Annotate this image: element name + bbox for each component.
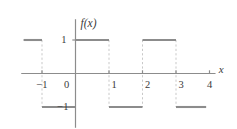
x-tick-label-3: 3 [178, 80, 183, 91]
x-tick-label-0: 0 [64, 80, 69, 91]
plot-area [0, 0, 237, 129]
function-label: f(x) [81, 18, 97, 30]
y-tick-label-1: 1 [61, 35, 66, 46]
x-tick-label-1: 1 [111, 80, 116, 91]
x-tick-label-4: 4 [207, 80, 212, 91]
square-wave-figure: f(x) 1 −1 −1 0 1 2 3 4 x [0, 0, 237, 129]
y-tick-label-neg1: −1 [57, 102, 68, 113]
x-tick-label-neg1: −1 [36, 80, 47, 91]
x-axis-label: x [219, 64, 224, 75]
x-tick-label-2: 2 [145, 80, 150, 91]
